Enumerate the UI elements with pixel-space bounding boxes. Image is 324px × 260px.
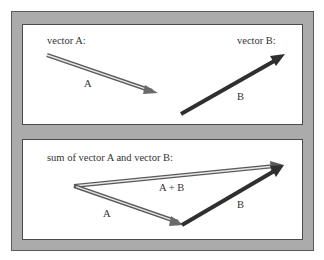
- vector-b-label: B: [237, 92, 244, 103]
- vector-a-label: A: [84, 79, 92, 90]
- sum-label: A + B: [159, 183, 184, 194]
- vector-b-heading: vector B:: [237, 36, 276, 47]
- sum-heading: sum of vector A and vector B:: [47, 153, 173, 164]
- vector-a-heading: vector A:: [47, 36, 86, 47]
- diagram-frame: [11, 11, 314, 251]
- vector-b-sum-label: B: [237, 200, 244, 211]
- vector-a-sum-label: A: [103, 209, 111, 220]
